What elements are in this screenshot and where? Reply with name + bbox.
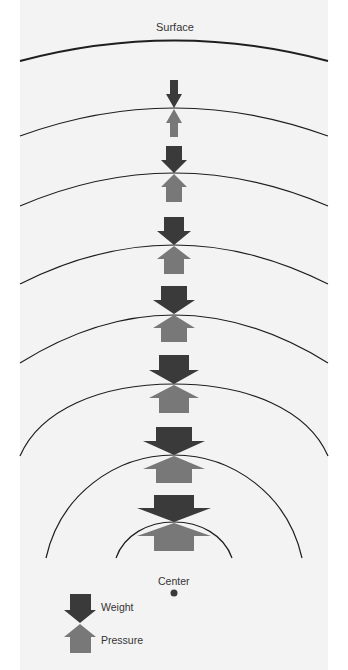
weight-arrow-icon bbox=[153, 286, 195, 314]
surface-label: Surface bbox=[156, 21, 194, 33]
weight-arrow-icon bbox=[137, 495, 211, 522]
surface-arc bbox=[20, 41, 328, 62]
legend-arrows bbox=[64, 594, 96, 653]
center-label: Center bbox=[158, 575, 190, 587]
weight-arrow-icon bbox=[157, 217, 191, 245]
weight-arrow-icon bbox=[143, 427, 205, 455]
legend-pressure-arrow-icon bbox=[64, 624, 96, 653]
legend-weight-arrow-icon bbox=[64, 594, 96, 623]
center-dot-icon bbox=[171, 590, 178, 597]
arrow-pair-2 bbox=[161, 146, 187, 202]
pressure-arrow-icon bbox=[149, 385, 199, 413]
arrow-pair-6 bbox=[143, 427, 205, 483]
pressure-arrow-icon bbox=[161, 174, 187, 202]
layered-pressure-diagram bbox=[0, 0, 348, 670]
weight-arrow-icon bbox=[149, 355, 199, 384]
pressure-arrow-icon bbox=[166, 109, 182, 137]
legend-weight-label: Weight bbox=[101, 601, 134, 613]
pressure-arrow-icon bbox=[143, 456, 205, 483]
arrow-pair-4 bbox=[153, 286, 195, 342]
arrow-pair-7 bbox=[137, 495, 211, 551]
weight-arrow-icon bbox=[161, 146, 187, 173]
weight-arrow-icon bbox=[166, 80, 182, 108]
legend-pressure-label: Pressure bbox=[101, 634, 143, 646]
pressure-arrow-icon bbox=[153, 315, 195, 342]
pressure-arrow-icon bbox=[157, 246, 191, 274]
